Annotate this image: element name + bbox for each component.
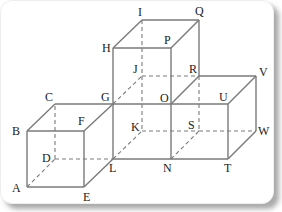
edge-tw	[228, 131, 256, 159]
vertex-label-h: H	[102, 41, 111, 55]
vertex-label-b: B	[12, 124, 20, 138]
vertex-label-g: G	[101, 90, 110, 104]
vertex-label-p: P	[164, 33, 171, 47]
edge-fg	[84, 104, 113, 131]
vertex-label-w: W	[258, 124, 270, 138]
vertex-label-r: R	[189, 62, 197, 76]
vertex-label-q: Q	[195, 4, 204, 18]
vertex-label-e: E	[83, 190, 90, 204]
vertex-label-o: O	[160, 91, 169, 105]
hidden-edge-lk	[113, 131, 142, 159]
vertex-label-l: L	[109, 161, 116, 175]
vertex-label-u: U	[219, 90, 228, 104]
vertex-label-a: A	[12, 181, 21, 195]
vertex-label-t: T	[224, 161, 232, 175]
vertex-label-c: C	[45, 90, 53, 104]
vertex-label-j: J	[133, 62, 138, 76]
hidden-edge-gj	[113, 76, 142, 104]
vertex-label-i: I	[138, 5, 142, 19]
vertex-label-v: V	[259, 65, 268, 79]
hidden-edge-ad	[27, 159, 55, 187]
edge-bc	[27, 104, 55, 131]
edge-qp	[171, 20, 199, 48]
vertex-label-f: F	[78, 114, 85, 128]
edge-or	[171, 76, 199, 104]
edge-uv	[228, 76, 256, 104]
edge-hi	[113, 20, 142, 48]
hidden-edge-ns	[171, 131, 199, 159]
vertex-label-d: D	[42, 151, 51, 165]
vertex-label-s: S	[188, 118, 195, 132]
vertex-label-n: N	[163, 161, 172, 175]
cube-diagram: A B C D E F G H I J K L N O P Q R S T U …	[0, 0, 282, 212]
vertex-label-k: K	[131, 120, 140, 134]
